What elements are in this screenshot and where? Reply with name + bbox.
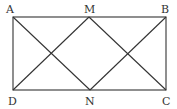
- geometry-diagram: A M B D N C: [0, 0, 177, 109]
- label-C: C: [162, 95, 170, 108]
- label-N: N: [85, 95, 95, 108]
- label-B: B: [161, 3, 169, 16]
- label-D: D: [8, 95, 17, 108]
- label-A: A: [5, 3, 15, 16]
- rectangle-ABCD: [13, 17, 166, 90]
- label-M: M: [84, 3, 95, 16]
